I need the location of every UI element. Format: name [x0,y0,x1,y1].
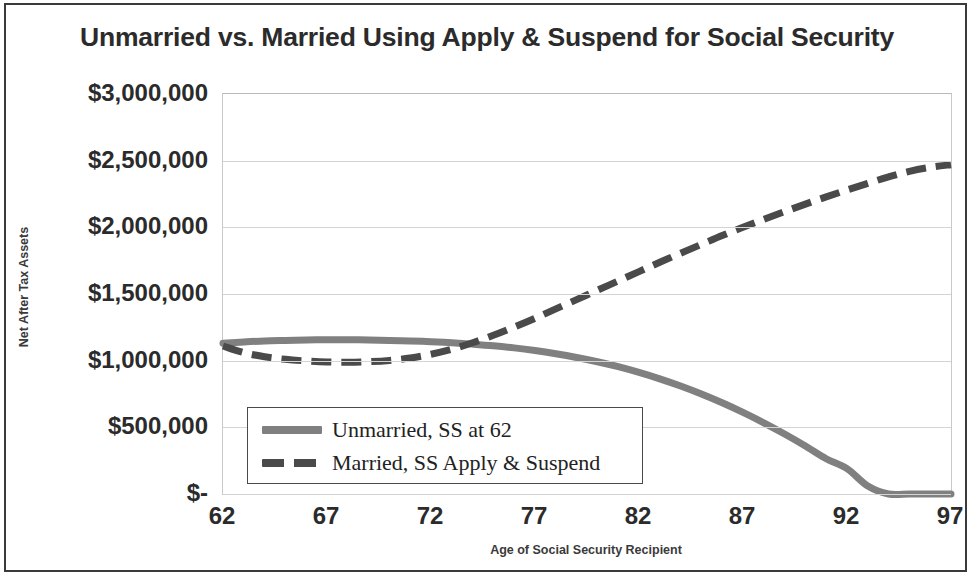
legend-swatch-dashed-icon [262,459,322,467]
chart-container: Unmarried vs. Married Using Apply & Susp… [0,0,974,577]
gridline [223,494,951,495]
x-axis-tick-label: 77 [521,502,548,530]
x-axis-tick-label: 72 [417,502,444,530]
y-axis-tick-label: $500,000 [34,412,208,440]
legend-item-label: Married, SS Apply & Suspend [332,450,600,476]
y-axis-tick-label: $3,000,000 [34,79,208,107]
y-axis-tick-label: $2,000,000 [34,212,208,240]
legend-item-label: Unmarried, SS at 62 [332,417,512,443]
legend-item: Married, SS Apply & Suspend [248,446,642,479]
legend-item: Unmarried, SS at 62 [248,413,642,446]
x-axis-tick-label: 92 [833,502,860,530]
y-axis-tick-labels: $3,000,000$2,500,000$2,000,000$1,500,000… [34,0,208,577]
y-axis-title: Net After Tax Assets [17,197,31,377]
x-axis-tick-label: 87 [729,502,756,530]
gridline [223,361,951,362]
series-line-married [223,165,951,363]
x-axis-tick-labels: 6267727782879297 [222,502,950,538]
gridline [223,161,951,162]
y-axis-tick-label: $1,000,000 [34,346,208,374]
x-axis-tick-label: 97 [937,502,964,530]
y-axis-tick-label: $2,500,000 [34,146,208,174]
gridline [223,227,951,228]
chart-legend: Unmarried, SS at 62 Married, SS Apply & … [247,407,643,484]
x-axis-tick-label: 82 [625,502,652,530]
legend-swatch-solid-icon [262,426,322,434]
y-axis-tick-label: $- [34,479,208,507]
x-axis-tick-label: 67 [313,502,340,530]
x-axis-tick-label: 62 [209,502,236,530]
x-axis-title: Age of Social Security Recipient [222,543,950,557]
y-axis-tick-label: $1,500,000 [34,279,208,307]
gridline [223,294,951,295]
